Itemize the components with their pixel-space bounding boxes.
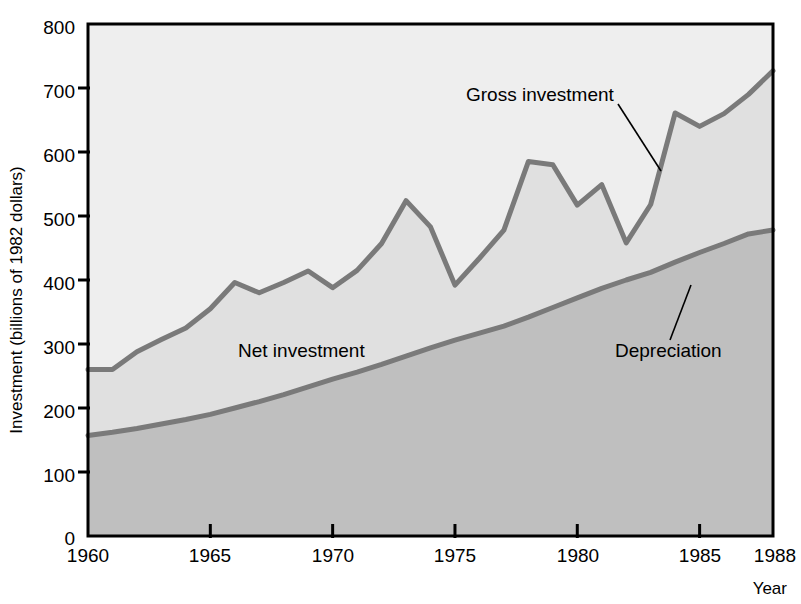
net-investment-annotation-label: Net investment [238, 340, 365, 361]
y-axis-title: Investment (billions of 1982 dollars) [7, 166, 26, 433]
y-tick-label-200: 200 [43, 401, 75, 422]
y-tick-label-700: 700 [43, 81, 75, 102]
x-tick-label-1960: 1960 [67, 545, 109, 566]
x-tick-label-1980: 1980 [557, 545, 599, 566]
investment-chart-figure: 800 700 600 500 400 300 200 100 0 1960 1… [0, 0, 801, 604]
y-tick-label-400: 400 [43, 273, 75, 294]
x-tick-label-1988: 1988 [754, 545, 796, 566]
y-tick-label-800: 800 [43, 17, 75, 38]
plot-area [88, 24, 773, 536]
y-tick-label-100: 100 [43, 465, 75, 486]
x-tick-label-1985: 1985 [679, 545, 721, 566]
y-tick-label-500: 500 [43, 209, 75, 230]
x-tick-label-1970: 1970 [312, 545, 354, 566]
x-axis-title: Year [753, 579, 788, 598]
x-tick-label-1975: 1975 [434, 545, 476, 566]
gross-investment-annotation-label: Gross investment [466, 84, 615, 105]
chart-svg: 800 700 600 500 400 300 200 100 0 1960 1… [0, 0, 801, 604]
y-tick-label-600: 600 [43, 145, 75, 166]
depreciation-annotation-label: Depreciation [615, 340, 722, 361]
x-tick-label-1965: 1965 [189, 545, 231, 566]
y-tick-label-300: 300 [43, 337, 75, 358]
